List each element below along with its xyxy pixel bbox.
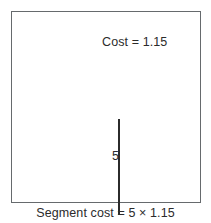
vertical-segment-line <box>118 119 120 215</box>
segment-cost-figure: Cost = 1.15 5 Segment cost = 5 × 1.15 <box>0 0 211 223</box>
figure-caption: Segment cost = 5 × 1.15 <box>0 205 211 222</box>
cost-label: Cost = 1.15 <box>102 35 167 50</box>
segment-length-label: 5 <box>112 149 119 164</box>
